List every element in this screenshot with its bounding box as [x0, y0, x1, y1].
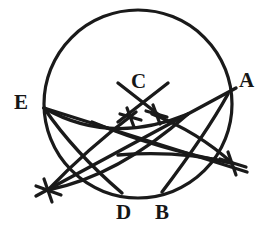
vertex-label-B: B: [155, 202, 169, 223]
vertex-label-C: C: [131, 71, 146, 92]
vertex-label-E: E: [14, 92, 28, 113]
vertex-label-D: D: [116, 202, 131, 223]
construction-drawing-canvas: [0, 0, 280, 233]
geometric-construction-diagram: E C A D B: [0, 0, 280, 233]
vertex-label-A: A: [239, 70, 254, 91]
